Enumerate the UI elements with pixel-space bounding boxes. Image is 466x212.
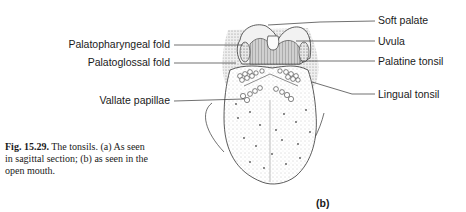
label-palatoglossal-fold: Palatoglossal fold <box>20 56 170 68</box>
label-palatine-tonsil: Palatine tonsil <box>378 55 443 67</box>
palatine-tonsil-right <box>299 42 309 62</box>
label-palatopharyngeal-fold: Palatopharyngeal fold <box>20 38 170 50</box>
cheek-outline-left <box>206 103 224 152</box>
label-soft-palate: Soft palate <box>378 14 428 26</box>
panel-label: (b) <box>316 197 329 209</box>
leader-soft-palate <box>268 21 375 25</box>
label-uvula: Uvula <box>378 35 405 47</box>
leader-lingual-tonsil <box>312 82 375 94</box>
tongue-illustration <box>0 0 466 212</box>
figure-number: Fig. 15.29. <box>5 141 49 152</box>
label-vallate-papillae: Vallate papillae <box>20 94 170 106</box>
uvula <box>267 36 279 50</box>
label-lingual-tonsil: Lingual tonsil <box>378 88 439 100</box>
figure-caption: Fig. 15.29. The tonsils. (a) As seen in … <box>5 141 155 177</box>
